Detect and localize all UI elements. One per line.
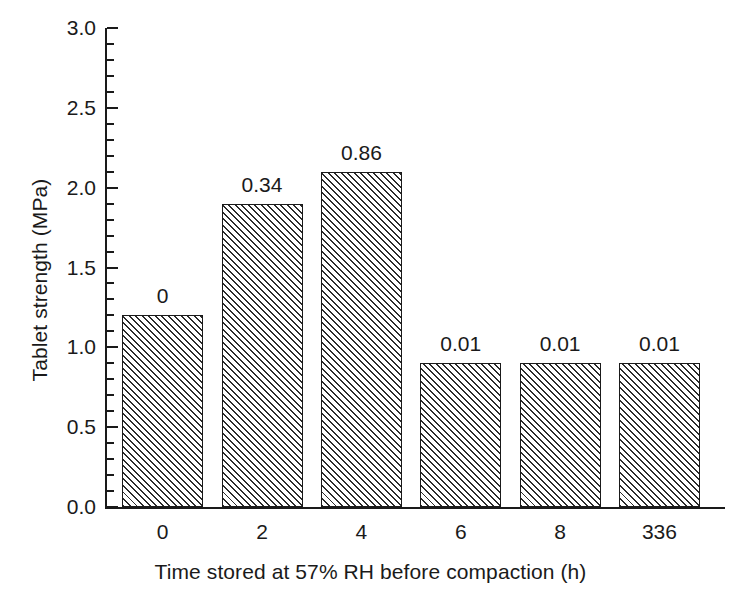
y-tick-minor (107, 219, 114, 221)
y-tick-minor (107, 203, 114, 205)
y-tick-minor (107, 442, 114, 444)
y-tick-major (107, 346, 118, 348)
y-tick-label: 0.5 (40, 415, 105, 439)
y-tick-minor (107, 75, 114, 77)
y-tick-minor (107, 155, 114, 157)
y-tick-minor (107, 474, 114, 476)
y-tick-label: 1.0 (40, 335, 105, 359)
y-tick-minor (107, 251, 114, 253)
y-tick-label: 2.5 (40, 96, 105, 120)
y-tick-major (107, 267, 118, 269)
y-tick-minor (107, 314, 114, 316)
x-tick-label: 4 (316, 520, 406, 544)
bar (619, 363, 700, 507)
bar-value-label: 0.34 (202, 173, 322, 197)
y-tick-minor (107, 362, 114, 364)
y-tick-minor (107, 330, 114, 332)
x-axis-line (105, 507, 725, 509)
y-tick-major (107, 506, 118, 508)
y-axis-label: Tablet strength (MPa) (28, 100, 52, 460)
y-tick-minor (107, 458, 114, 460)
y-tick-label: 2.0 (40, 176, 105, 200)
y-tick-minor (107, 139, 114, 141)
y-tick-minor (107, 378, 114, 380)
y-tick-minor (107, 490, 114, 492)
x-tick-label: 2 (217, 520, 307, 544)
y-tick-major (107, 187, 118, 189)
y-tick-major (107, 107, 118, 109)
bar-value-label: 0.86 (301, 141, 421, 165)
y-tick-minor (107, 410, 114, 412)
y-tick-major (107, 426, 118, 428)
y-tick-minor (107, 43, 114, 45)
bar (520, 363, 601, 507)
bar-value-label: 0 (103, 284, 223, 308)
y-tick-minor (107, 123, 114, 125)
x-axis-label: Time stored at 57% RH before compaction … (0, 560, 741, 584)
y-tick-minor (107, 235, 114, 237)
x-tick-label: 336 (614, 520, 704, 544)
y-axis-line (105, 28, 107, 509)
y-tick-label: 1.5 (40, 256, 105, 280)
bar (321, 172, 402, 507)
x-tick-label: 6 (416, 520, 506, 544)
y-tick-minor (107, 171, 114, 173)
bar (420, 363, 501, 507)
x-tick-label: 8 (515, 520, 605, 544)
bar-value-label: 0.01 (599, 332, 719, 356)
y-tick-major (107, 27, 118, 29)
plot-area: 0.00.51.01.52.02.53.0 02468336 00.340.86… (105, 28, 725, 508)
y-tick-minor (107, 91, 114, 93)
bar (122, 315, 203, 507)
y-tick-label: 3.0 (40, 16, 105, 40)
bar (222, 204, 303, 507)
y-tick-minor (107, 394, 114, 396)
x-tick-label: 0 (118, 520, 208, 544)
y-tick-minor (107, 59, 114, 61)
y-tick-label: 0.0 (40, 495, 105, 519)
bar-chart: Tablet strength (MPa) 0.00.51.01.52.02.5… (0, 0, 741, 600)
